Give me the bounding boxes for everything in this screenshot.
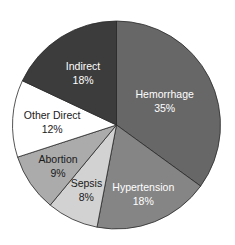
slice-label-hypertension: Hypertension xyxy=(112,181,174,193)
slice-value-hemorrhage: 35% xyxy=(154,102,175,114)
slice-value-abortion: 9% xyxy=(50,167,65,179)
slice-label-other-direct: Other Direct xyxy=(24,109,81,121)
pie-chart: Hemorrhage35%Hypertension18%Sepsis8%Abor… xyxy=(0,0,235,245)
slice-label-sepsis: Sepsis xyxy=(71,177,103,189)
slice-value-indirect: 18% xyxy=(73,74,94,86)
slice-value-sepsis: 8% xyxy=(79,191,94,203)
slice-label-hemorrhage: Hemorrhage xyxy=(135,88,194,100)
slice-label-abortion: Abortion xyxy=(38,153,77,165)
slice-label-indirect: Indirect xyxy=(66,60,101,72)
slice-value-other-direct: 12% xyxy=(42,123,63,135)
slice-value-hypertension: 18% xyxy=(133,195,154,207)
